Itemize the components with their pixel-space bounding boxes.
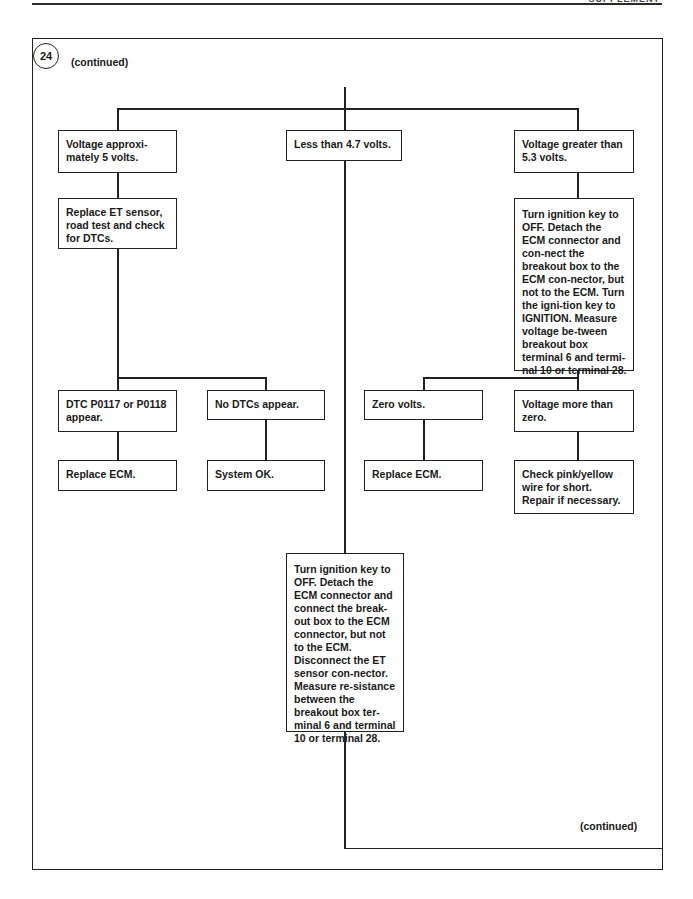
node-voltage-approx-5: Voltage approxi-mately 5 volts. [58, 130, 177, 173]
connector-to-left [117, 108, 119, 130]
node-check-pink-yellow: Check pink/yellow wire for short. Repair… [514, 460, 634, 514]
node-zero-volts: Zero volts. [364, 390, 483, 420]
node-less-than-4-7: Less than 4.7 volts. [286, 130, 402, 161]
connector-right-branch-l [423, 377, 425, 390]
node-greater-than-5-3: Voltage greater than 5.3 volts. [514, 130, 634, 173]
node-replace-ecm-right: Replace ECM. [364, 460, 483, 491]
node-replace-et-sensor: Replace ET sensor, road test and check f… [58, 198, 177, 249]
node-system-ok: System OK. [207, 460, 325, 491]
connector-3d [577, 432, 579, 460]
continued-label-top: (continued) [71, 56, 128, 68]
connector-left-1 [117, 173, 119, 198]
connector-left-2 [117, 249, 119, 390]
node-replace-ecm-left: Replace ECM. [58, 460, 177, 491]
connector-left-branch [117, 377, 266, 379]
connector-3b [265, 420, 267, 460]
node-voltage-more-than-zero: Voltage more than zero. [514, 390, 634, 432]
node-measure-resistance: Turn ignition key to OFF. Detach the ECM… [286, 553, 404, 732]
connector-to-right [577, 108, 579, 130]
node-measure-voltage: Turn ignition key to OFF. Detach the ECM… [514, 198, 634, 371]
connector-left-branch-r [265, 377, 267, 390]
connector-right-1 [577, 173, 579, 198]
header-rule [32, 3, 662, 5]
connector-right-2 [577, 371, 579, 390]
connector-right-branch [423, 377, 578, 379]
node-dtc-p0117-p0118: DTC P0117 or P0118 appear. [58, 390, 177, 432]
inner-continuation-frame [344, 736, 663, 849]
connector-top-branch [117, 108, 578, 110]
connector-3c [423, 420, 425, 460]
continued-label-bottom: (continued) [580, 820, 637, 832]
node-no-dtcs: No DTCs appear. [207, 390, 325, 420]
page-header-right: SUPPLEMENT [588, 0, 660, 4]
connector-3a [117, 432, 119, 460]
step-number-badge: 24 [33, 43, 59, 69]
